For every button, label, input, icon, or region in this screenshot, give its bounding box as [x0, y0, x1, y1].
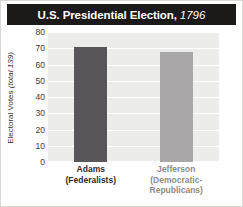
chart-title-text: U.S. Presidential Election,	[38, 9, 177, 21]
x-axis-category-label: Adams(Federalists)	[50, 164, 132, 185]
y-axis-tick-label: 80	[36, 28, 45, 37]
x-axis-categories: Adams(Federalists)Jefferson(Democratic-R…	[48, 164, 219, 206]
y-axis-label-text: Electoral Votes	[6, 88, 15, 144]
y-axis-ticks: 80706050403020100	[19, 27, 47, 167]
plot-area	[48, 32, 219, 162]
candidate-name: Adams	[50, 164, 132, 175]
y-axis-tick-label: 0	[40, 158, 45, 167]
y-axis-tick-label: 20	[36, 125, 45, 134]
chart-title-bar: U.S. Presidential Election,1796	[7, 4, 236, 25]
candidate-party: (Federalists)	[50, 175, 132, 186]
y-axis-tick-label: 40	[36, 93, 45, 102]
x-axis-category-label: Jefferson(Democratic-Republicans)	[136, 164, 218, 196]
chart-title-year: 1796	[180, 9, 206, 21]
y-axis-tick-label: 10	[36, 142, 45, 151]
y-axis-tick-label: 50	[36, 77, 45, 86]
candidate-party: (Democratic-Republicans)	[136, 175, 218, 196]
y-axis-tick-label: 30	[36, 109, 45, 118]
gridline	[48, 32, 219, 33]
y-axis-tick-label: 70	[36, 44, 45, 53]
candidate-name: Jefferson	[136, 164, 218, 175]
y-axis-tick-label: 60	[36, 60, 45, 69]
bar	[160, 52, 193, 163]
chart-figure: U.S. Presidential Election,1796 Electora…	[0, 0, 243, 207]
y-axis-label-note: (total 139)	[6, 52, 15, 88]
y-axis-label: Electoral Votes (total 139)	[3, 31, 19, 164]
bar	[74, 47, 107, 162]
